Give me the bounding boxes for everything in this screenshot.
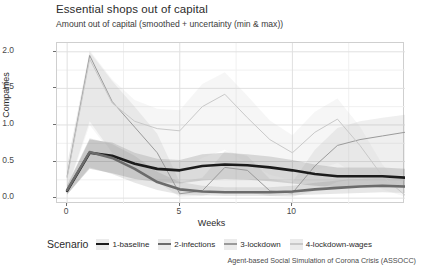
y-tick-label: 0.5 (0, 155, 14, 165)
x-tick-label: 5 (159, 206, 199, 216)
y-axis-label: Companies (1, 50, 11, 140)
x-tick-label: 0 (46, 206, 86, 216)
legend-item-3-lockdown[interactable]: 3-lockdown (224, 239, 280, 250)
legend-item-label: 1-baseline (112, 240, 149, 249)
legend-item-2-infections[interactable]: 2-infections (158, 239, 215, 250)
x-tick-mark (291, 203, 292, 206)
legend-title: Scenario (47, 238, 88, 250)
x-tick-mark (66, 203, 67, 206)
chart-subtitle: Amount out of capital (smoothed + uncert… (56, 19, 283, 29)
x-tick-label: 10 (271, 206, 311, 216)
legend-key-swatch (290, 239, 303, 250)
chart-root: Essential shops out of capital Amount ou… (0, 0, 423, 273)
legend-key-swatch (96, 239, 109, 250)
legend-item-label: 4-lockdown-wages (306, 240, 372, 249)
chart-title: Essential shops out of capital (56, 3, 208, 15)
x-axis-label: Weeks (0, 218, 423, 228)
legend-item-1-baseline[interactable]: 1-baseline (96, 239, 149, 250)
legend-key-swatch (158, 239, 171, 250)
legend-item-label: 2-infections (174, 240, 215, 249)
legend-item-label: 3-lockdown (240, 240, 280, 249)
plot-area (57, 43, 405, 204)
plot-panel (56, 42, 404, 203)
y-tick-label: 0.0 (0, 191, 14, 201)
chart-caption: Agent-based Social Simulation of Corona … (227, 256, 416, 265)
chart-legend: Scenario 1-baseline2-infections3-lockdow… (0, 236, 423, 252)
legend-key-swatch (224, 239, 237, 250)
x-tick-mark (179, 203, 180, 206)
legend-item-4-lockdown-wages[interactable]: 4-lockdown-wages (290, 239, 372, 250)
